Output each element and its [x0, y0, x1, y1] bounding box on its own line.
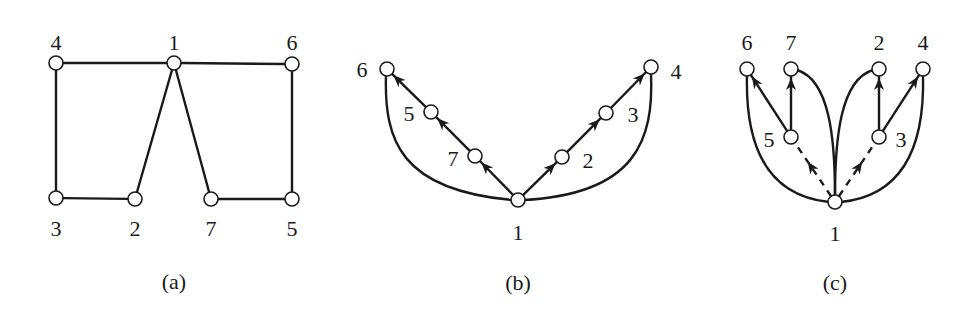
node-label-6: 6: [287, 30, 298, 55]
node-label-1: 1: [513, 220, 524, 245]
node-label-1: 1: [830, 221, 841, 246]
node-label-4: 4: [51, 30, 62, 55]
node-3: [599, 106, 613, 120]
diagram-c-bfs-tree: 6724531(c): [740, 30, 930, 295]
node-label-6: 6: [742, 30, 753, 55]
arrowhead-icon: [851, 162, 862, 175]
node-1: [167, 56, 181, 70]
node-label-1: 1: [169, 30, 180, 55]
figure-canvas: 4163275(a) 6571234(b) 6724531(c): [0, 0, 970, 313]
node-label-3: 3: [896, 127, 907, 152]
node-label-5: 5: [287, 216, 298, 241]
edge-3-2: [63, 198, 128, 199]
node-label-6: 6: [357, 57, 368, 82]
node-4: [644, 60, 658, 74]
node-label-7: 7: [206, 216, 217, 241]
node-5: [784, 130, 798, 144]
node-label-2: 2: [874, 30, 885, 55]
node-label-5: 5: [404, 101, 415, 126]
node-label-2: 2: [130, 216, 141, 241]
arrowhead-icon: [808, 162, 819, 175]
node-label-4: 4: [671, 59, 682, 84]
edge-1-3: [839, 143, 875, 196]
caption-c: (c): [823, 270, 847, 295]
node-7: [204, 192, 218, 206]
node-2: [128, 192, 142, 206]
node-3: [872, 130, 886, 144]
nodes: 6724531: [740, 30, 930, 246]
node-6: [740, 62, 754, 76]
edge-1-5: [795, 143, 831, 196]
node-label-7: 7: [448, 146, 459, 171]
caption-b: (b): [505, 270, 531, 295]
node-7: [784, 62, 798, 76]
node-label-2: 2: [583, 148, 594, 173]
node-4: [49, 56, 63, 70]
arrowhead-icon: [752, 77, 763, 90]
node-label-3: 3: [628, 102, 639, 127]
edges: [386, 72, 651, 200]
edge-2-1: [835, 70, 873, 196]
node-1: [828, 195, 842, 209]
edge-7-1: [797, 70, 835, 196]
edge-6-1: [386, 75, 512, 200]
node-label-4: 4: [918, 30, 929, 55]
edge-4-1: [524, 73, 651, 200]
diagram-b-dfs-tree: 6571234(b): [357, 57, 682, 295]
edges: [56, 63, 292, 199]
caption-a: (a): [162, 269, 186, 294]
node-2: [872, 62, 886, 76]
node-label-3: 3: [51, 216, 62, 241]
diagram-a-undirected-graph: 4163275(a): [49, 30, 299, 294]
node-4: [916, 62, 930, 76]
edge-1-6: [181, 63, 285, 64]
node-2: [555, 150, 569, 164]
node-6: [380, 62, 394, 76]
node-5: [424, 105, 438, 119]
edge-1-7: [176, 70, 209, 192]
node-label-7: 7: [786, 30, 797, 55]
node-1: [511, 193, 525, 207]
edge-2-1: [137, 70, 172, 193]
node-3: [49, 191, 63, 205]
node-label-5: 5: [764, 127, 775, 152]
node-7: [468, 149, 482, 163]
node-5: [285, 192, 299, 206]
nodes: 4163275: [49, 30, 299, 241]
arrowhead-icon: [907, 77, 918, 90]
node-6: [285, 57, 299, 71]
